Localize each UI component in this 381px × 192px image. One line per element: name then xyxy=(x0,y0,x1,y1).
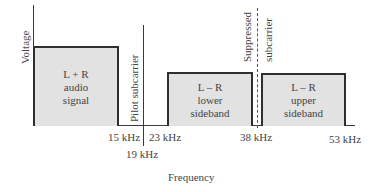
pilot-subcarrier-line xyxy=(143,25,144,146)
tick-19khz: 19 kHz xyxy=(126,148,158,160)
block-line: upper xyxy=(291,94,316,107)
y-axis-label: Voltage xyxy=(19,31,31,64)
tick-23khz: 23 kHz xyxy=(149,131,181,143)
pilot-subcarrier-label: Pilot subcarrier xyxy=(128,54,140,122)
subcarrier-label: subcarrier xyxy=(262,18,274,62)
tick-15khz: 15 kHz xyxy=(108,131,140,143)
lower-sideband-block: L – R lower sideband xyxy=(167,72,253,126)
suppressed-subcarrier-line xyxy=(257,8,258,128)
tick-53khz: 53 kHz xyxy=(329,133,361,145)
block-line: sideband xyxy=(190,107,229,120)
upper-sideband-block: L – R upper sideband xyxy=(261,73,346,126)
block-line: sideband xyxy=(284,107,323,120)
block-line: L – R xyxy=(291,81,316,94)
block-line: audio xyxy=(64,81,88,94)
suppressed-label: Suppressed xyxy=(241,12,253,62)
x-axis-label: Frequency xyxy=(168,171,214,183)
block-line: signal xyxy=(63,94,89,107)
block-line: lower xyxy=(197,94,222,107)
tick-38khz: 38 kHz xyxy=(240,131,272,143)
lr-audio-signal-block: L + R audio signal xyxy=(33,46,119,126)
block-line: L + R xyxy=(63,68,88,81)
block-line: L – R xyxy=(198,81,223,94)
